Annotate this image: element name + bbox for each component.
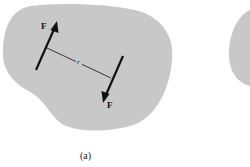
second-body-shape (229, 10, 250, 86)
diagram-canvas: F F r (0, 0, 250, 167)
distance-label: r (77, 58, 80, 66)
force-label-upper: F (41, 21, 47, 31)
figure-caption: (a) (80, 150, 91, 161)
force-label-lower: F (107, 100, 113, 110)
